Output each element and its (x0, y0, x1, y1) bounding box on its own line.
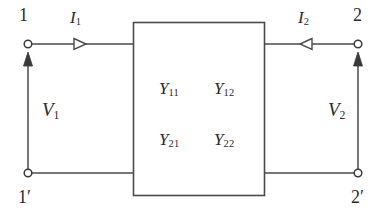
y-parameter-y12: Y12 (214, 80, 234, 99)
terminal-node-2 (354, 40, 362, 48)
current-arrow-i1-icon (74, 39, 86, 50)
y21-subscript: 21 (168, 138, 179, 149)
terminal-label-1-prime: 1′ (18, 188, 31, 206)
y-parameter-y11: Y11 (159, 80, 179, 99)
current-label-i2: I2 (298, 9, 309, 28)
circuit-diagram-canvas: 1 1′ 2 2′ I1 I2 V1 V2 Y11 Y12 Y21 Y22 (0, 0, 384, 222)
voltage-v2-subscript: 2 (340, 109, 346, 122)
y22-subscript: 22 (223, 138, 234, 149)
y12-subscript: 12 (223, 87, 234, 98)
y-parameter-y22: Y22 (214, 131, 234, 150)
terminal-label-2-prime: 2′ (351, 188, 364, 206)
terminal-label-2: 2 (353, 6, 362, 24)
terminal-node-1 (24, 40, 32, 48)
voltage-v1-symbol: V (42, 99, 54, 120)
voltage-label-v2: V2 (328, 100, 346, 121)
y11-subscript: 11 (168, 87, 179, 98)
voltage-arrow-v1-head-icon (24, 52, 33, 66)
voltage-label-v1: V1 (42, 100, 60, 121)
y-parameter-y21: Y21 (159, 131, 179, 150)
terminal-node-2-prime (354, 169, 362, 177)
voltage-v1-subscript: 1 (54, 109, 60, 122)
voltage-arrow-v2-head-icon (354, 52, 363, 66)
current-arrow-i2-icon (300, 39, 312, 50)
two-port-box (134, 23, 265, 196)
terminal-node-1-prime (24, 169, 32, 177)
voltage-v2-symbol: V (328, 99, 340, 120)
current-i2-subscript: 2 (304, 16, 309, 27)
terminal-label-1: 1 (19, 6, 28, 24)
current-label-i1: I1 (70, 9, 81, 28)
current-i1-subscript: 1 (76, 16, 81, 27)
